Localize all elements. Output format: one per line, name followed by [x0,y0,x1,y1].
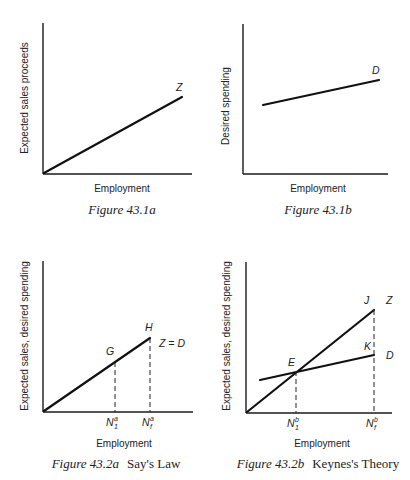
z-equals-d-label: Z = D [158,337,185,349]
figure-caption: Figure 43.2bKeynes's Theory [236,456,400,471]
figure-caption: Figure 43.1a [87,202,156,217]
figure-caption: Figure 43.2aSay's Law [51,456,181,471]
y-axis-label: Expected sales, desired spending [221,261,232,411]
svg-text:b: b [374,416,378,423]
d-label: D [372,64,380,76]
tick-n1-a: N a 1 [106,415,118,430]
point-g-label: G [106,345,114,357]
y-axis-label: Expected sales proceeds [19,42,30,154]
tick-nf-b: N b f [366,416,378,431]
y-axis-label: Expected sales, desired spending [19,261,30,411]
figure-43-1a: Z Expected sales proceeds Employment Fig… [19,23,192,217]
d-curve [260,355,374,380]
point-k-label: K [364,340,372,352]
point-h-label: H [145,321,153,333]
z-curve [44,97,182,173]
svg-text:1: 1 [295,424,299,431]
d-curve [263,80,379,105]
figure-43-2a: G H Z = D N a 1 N a f Expected sales, de… [19,261,193,471]
point-e-label: E [288,356,296,368]
tick-n1-b: N b 1 [287,416,299,431]
svg-text:N: N [142,416,150,428]
svg-text:f: f [150,423,153,430]
figure-43-1b: D Desired spending Employment Figure 43.… [220,24,388,217]
x-axis-label: Employment [96,438,152,449]
d-label: D [386,349,394,361]
z-label: Z [385,294,393,306]
y-axis-label: Desired spending [220,67,231,145]
figure-caption: Figure 43.1b [283,202,352,217]
z-curve [247,310,374,412]
figure-43-2b: E J K Z D N b 1 N b f Expected sales, de… [221,261,400,471]
svg-text:a: a [150,415,154,422]
z-equals-d-curve [44,338,150,411]
figure-canvas: Z Expected sales proceeds Employment Fig… [0,0,410,480]
svg-text:N: N [366,417,374,429]
x-axis-label: Employment [294,438,350,449]
svg-text:b: b [295,416,299,423]
svg-text:1: 1 [114,423,118,430]
tick-nf-a: N a f [142,415,154,430]
point-j-label: J [363,294,370,306]
svg-text:N: N [106,416,114,428]
svg-text:f: f [374,424,377,431]
x-axis-label: Employment [94,183,150,194]
svg-text:N: N [287,417,295,429]
svg-text:a: a [114,415,118,422]
x-axis-label: Employment [290,183,346,194]
z-label: Z [175,81,183,93]
